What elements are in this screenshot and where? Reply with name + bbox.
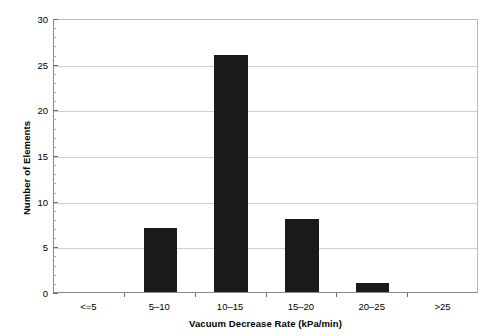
x-axis-tick xyxy=(266,293,267,297)
y-minor-tick xyxy=(53,229,56,230)
y-minor-tick xyxy=(53,174,56,175)
x-axis-tick xyxy=(195,293,196,297)
y-minor-tick xyxy=(53,56,56,57)
gridline xyxy=(54,66,477,67)
y-minor-tick xyxy=(53,28,56,29)
bar xyxy=(144,228,177,292)
y-axis-tick-label: 5 xyxy=(4,242,48,253)
x-axis-tick xyxy=(336,293,337,297)
y-axis-tick-label: 30 xyxy=(4,14,48,25)
y-minor-tick xyxy=(53,266,56,267)
plot-area xyxy=(53,19,478,293)
x-axis-tick-label: >25 xyxy=(407,301,478,315)
y-major-tick xyxy=(53,293,58,294)
y-axis-tick-marks xyxy=(53,19,61,293)
y-major-tick xyxy=(53,110,58,111)
y-minor-tick xyxy=(53,101,56,102)
y-minor-tick xyxy=(53,238,56,239)
x-axis-ticks xyxy=(53,293,478,298)
y-minor-tick xyxy=(53,46,56,47)
y-minor-tick xyxy=(53,138,56,139)
y-axis-tick-label: 20 xyxy=(4,105,48,116)
y-axis-tick-label: 0 xyxy=(4,288,48,299)
y-minor-tick xyxy=(53,284,56,285)
x-axis-tick xyxy=(407,293,408,297)
y-axis-tick-label: 25 xyxy=(4,59,48,70)
y-minor-tick xyxy=(53,256,56,257)
y-minor-tick xyxy=(53,165,56,166)
gridline xyxy=(54,248,477,249)
y-minor-tick xyxy=(53,119,56,120)
y-minor-tick xyxy=(53,37,56,38)
x-axis-tick-label: 10–15 xyxy=(195,301,266,315)
y-major-tick xyxy=(53,156,58,157)
y-major-tick xyxy=(53,19,58,20)
y-minor-tick xyxy=(53,74,56,75)
y-minor-tick xyxy=(53,183,56,184)
bar xyxy=(356,283,389,292)
x-axis-tick-label: 20–25 xyxy=(336,301,407,315)
y-minor-tick xyxy=(53,129,56,130)
gridline xyxy=(54,111,477,112)
y-minor-tick xyxy=(53,275,56,276)
y-axis-tick-labels: 051015202530 xyxy=(0,19,48,293)
y-minor-tick xyxy=(53,92,56,93)
y-minor-tick xyxy=(53,220,56,221)
bar xyxy=(285,219,318,292)
gridline xyxy=(54,157,477,158)
y-minor-tick xyxy=(53,193,56,194)
x-axis-tick-label: <=5 xyxy=(53,301,124,315)
y-axis-tick-label: 15 xyxy=(4,151,48,162)
y-major-tick xyxy=(53,65,58,66)
gridline xyxy=(54,203,477,204)
x-axis-tick xyxy=(124,293,125,297)
bar-chart: Number of Elements 051015202530 <=55–101… xyxy=(0,0,489,336)
y-major-tick xyxy=(53,247,58,248)
y-major-tick xyxy=(53,202,58,203)
bar xyxy=(214,55,247,292)
y-minor-tick xyxy=(53,211,56,212)
x-axis-tick-label: 15–20 xyxy=(265,301,336,315)
x-axis-tick-label: 5–10 xyxy=(124,301,195,315)
y-minor-tick xyxy=(53,83,56,84)
y-axis-tick-label: 10 xyxy=(4,196,48,207)
y-minor-tick xyxy=(53,147,56,148)
x-axis-tick-labels: <=55–1010–1515–2020–25>25 xyxy=(53,301,478,315)
x-axis-title: Vacuum Decrease Rate (kPa/min) xyxy=(53,318,478,329)
